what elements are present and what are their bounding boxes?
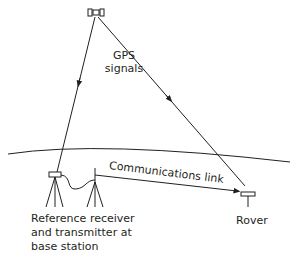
- gps-signal-arrow-rover: [166, 95, 170, 100]
- reference-station-label: Reference receiver and transmitter at ba…: [31, 212, 135, 254]
- rover-antenna-icon: [241, 192, 255, 207]
- rover-label: Rover: [236, 214, 268, 227]
- reference-label-line2: and transmitter at: [31, 226, 135, 240]
- tripod-antenna-icon: [87, 168, 103, 207]
- gps-signals-label-line1: GPS: [104, 49, 144, 62]
- gps-signals-label-line2: signals: [104, 62, 144, 75]
- gps-signal-arrow-reference: [79, 78, 80, 84]
- reference-label-line3: base station: [31, 240, 135, 254]
- cable-line: [61, 175, 95, 189]
- tripod-receiver-icon: [46, 172, 63, 207]
- gps-signals-label: GPS signals: [104, 49, 144, 75]
- reference-label-line1: Reference receiver: [31, 212, 135, 226]
- satellite-icon: [88, 9, 104, 16]
- earth-horizon-line: [8, 149, 290, 162]
